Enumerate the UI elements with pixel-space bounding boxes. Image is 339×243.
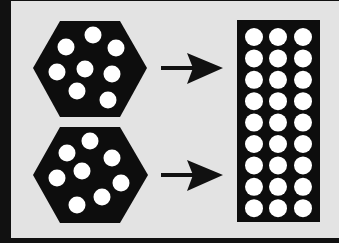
grid-hole (245, 49, 263, 67)
hole (49, 64, 66, 81)
grid-hole (269, 114, 287, 132)
grid-hole (294, 114, 312, 132)
grid-hole (294, 178, 312, 196)
grid-hole (294, 135, 312, 153)
grid-hole (294, 199, 312, 217)
grid-hole (269, 156, 287, 174)
grid-hole (245, 156, 263, 174)
hole (85, 27, 102, 44)
grid-hole (245, 199, 263, 217)
hole (104, 150, 121, 167)
arrow-group (161, 53, 223, 191)
arrow-shaft (161, 66, 193, 70)
top-arrow (161, 53, 223, 84)
hole (104, 66, 121, 83)
hole (58, 39, 75, 56)
grid-hole (269, 135, 287, 153)
diagram-frame (0, 0, 339, 243)
grid-hole (245, 135, 263, 153)
grid-hole (245, 71, 263, 89)
grid-hole (269, 49, 287, 67)
grid-hole (294, 71, 312, 89)
hole-grid (237, 20, 320, 222)
top-hexagon (33, 21, 147, 117)
hole (74, 163, 91, 180)
hole (49, 170, 66, 187)
grid-hole (294, 92, 312, 110)
hole (69, 83, 86, 100)
arrow-shaft (161, 173, 193, 177)
grid-hole (269, 178, 287, 196)
grid-hole (269, 92, 287, 110)
hole (100, 92, 117, 109)
bottom-arrow (161, 160, 223, 191)
bottom-hexagon (33, 127, 148, 223)
hexagon-group (33, 21, 148, 223)
grid-hole (245, 92, 263, 110)
grid-hole (269, 71, 287, 89)
hole (69, 197, 86, 214)
grid-hole (294, 156, 312, 174)
grid-hole (269, 28, 287, 46)
hole (59, 145, 76, 162)
hole (94, 189, 111, 206)
grid-hole (294, 28, 312, 46)
hole (82, 133, 99, 150)
diagram-canvas (0, 0, 339, 243)
grid-hole (245, 28, 263, 46)
grid-hole (245, 178, 263, 196)
hole (77, 61, 94, 78)
grid-hole (245, 114, 263, 132)
grid-hole (269, 199, 287, 217)
grid-hole (294, 49, 312, 67)
hole (113, 175, 130, 192)
hole (108, 40, 125, 57)
